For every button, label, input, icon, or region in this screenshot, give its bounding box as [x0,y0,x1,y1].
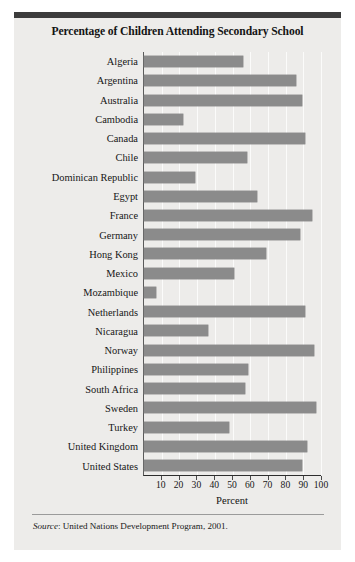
bar [144,345,314,356]
x-axis-title: Percent [143,495,321,506]
category-label: South Africa [14,380,143,399]
category-label: Canada [14,129,143,148]
bar [144,460,302,471]
bar [144,383,245,394]
category-label: Mexico [14,264,143,283]
bar-row [144,456,321,475]
bar-row [144,341,321,360]
x-tick-label: 40 [209,479,219,490]
bar-row [144,360,321,379]
bar-row [144,321,321,340]
category-label: Mozambique [14,283,143,302]
category-label: Dominican Republic [14,168,143,187]
category-label: Chile [14,148,143,167]
bar [144,56,243,67]
bar [144,172,195,183]
bar-row [144,437,321,456]
source-label: Source [33,521,58,531]
category-label: Australia [14,91,143,110]
bar-series [144,52,321,475]
bar [144,287,156,298]
category-label: Turkey [14,418,143,437]
bar-row [144,302,321,321]
chart-title: Percentage of Children Attending Seconda… [14,25,341,38]
bar-row [144,52,321,71]
bar-row [144,264,321,283]
x-tick-label: 20 [174,479,184,490]
x-tick-label: 80 [281,479,291,490]
x-tick-label: 50 [227,479,237,490]
category-label: Netherlands [14,302,143,321]
source-divider [32,514,324,515]
bar [144,325,208,336]
bar [144,441,307,452]
bar [144,114,183,125]
category-label: Hong Kong [14,245,143,264]
category-label: France [14,206,143,225]
bar-row [144,206,321,225]
bar [144,75,296,86]
bar [144,248,266,259]
bar-row [144,398,321,417]
bar-row [144,225,321,244]
bar-row [144,110,321,129]
gridline [321,52,322,475]
bar [144,229,300,240]
bar-row [144,71,321,90]
x-tick-label: 100 [314,479,328,490]
category-label: Argentina [14,71,143,90]
bar-row [144,283,321,302]
category-axis-labels: AlgeriaArgentinaAustraliaCambodiaCanadaC… [14,52,143,476]
chart-figure: Percentage of Children Attending Seconda… [14,12,341,550]
bar [144,95,302,106]
category-label: Cambodia [14,110,143,129]
bar-row [144,167,321,186]
category-label: United States [14,457,143,476]
source-note: Source: United Nations Development Progr… [33,521,228,531]
category-label: Norway [14,341,143,360]
bar [144,306,305,317]
bar-row [144,187,321,206]
bar [144,152,247,163]
bar [144,191,257,202]
x-tick-label: 70 [263,479,273,490]
x-tick-label: 90 [298,479,308,490]
title-rule [14,12,341,18]
category-label: Egypt [14,187,143,206]
x-tick-label: 10 [156,479,166,490]
bar [144,364,248,375]
bar-row [144,379,321,398]
x-tick-label: 60 [245,479,255,490]
category-label: Germany [14,225,143,244]
x-axis-tick-labels: 102030405060708090100 [143,479,321,493]
bar-row [144,417,321,436]
bar [144,210,312,221]
bar-row [144,148,321,167]
category-label: United Kingdom [14,437,143,456]
bar [144,133,305,144]
bar [144,268,234,279]
bar [144,422,229,433]
category-label: Philippines [14,360,143,379]
plot-area [143,52,321,476]
category-label: Nicaragua [14,322,143,341]
bar-row [144,129,321,148]
source-text: : United Nations Development Program, 20… [58,521,228,531]
bar-row [144,90,321,109]
category-label: Algeria [14,52,143,71]
bar-row [144,244,321,263]
category-label: Sweden [14,399,143,418]
x-tick-label: 30 [192,479,202,490]
plot-wrapper: AlgeriaArgentinaAustraliaCambodiaCanadaC… [14,52,341,497]
bar [144,402,316,413]
